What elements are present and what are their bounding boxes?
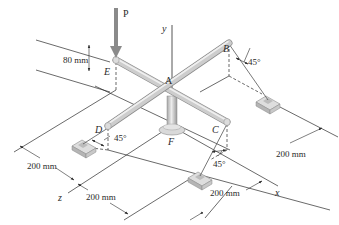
dim-bottom-right: 200 mm: [210, 188, 240, 198]
label-point-c: C: [212, 124, 219, 135]
dim-left: 200 mm: [27, 161, 57, 171]
dim-right: 200 mm: [276, 149, 306, 159]
anchor-d: [72, 140, 96, 158]
label-angle-d: 45°: [114, 133, 127, 143]
label-angle-b: 45°: [248, 57, 261, 67]
dim-height-e: 80 mm: [63, 55, 88, 65]
label-axis-z: z: [57, 192, 62, 203]
post-f: [159, 96, 185, 135]
frame-diagram: P y A B E D C F 45° 45° 45° 80 mm 200 mm…: [0, 0, 339, 225]
load-arrow-p: [110, 8, 122, 58]
label-angle-c: 45°: [213, 159, 226, 169]
anchor-b: [256, 96, 280, 114]
label-point-f: F: [167, 136, 175, 147]
label-load-p: P: [123, 8, 129, 19]
label-axis-x: x: [274, 187, 280, 198]
label-point-b: B: [223, 43, 229, 54]
label-point-e: E: [103, 66, 110, 77]
dim-bottom-left: 200 mm: [86, 192, 116, 202]
label-axis-y: y: [161, 23, 167, 34]
label-point-d: D: [94, 124, 103, 135]
anchor-c: [188, 172, 212, 190]
label-point-a: A: [165, 75, 173, 86]
